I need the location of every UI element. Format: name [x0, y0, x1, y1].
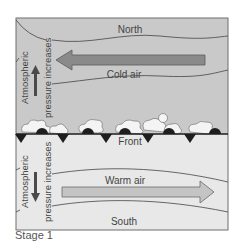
north-label: North [118, 24, 142, 35]
south-label: South [111, 216, 137, 227]
weather-front-diagram: North Cold air Front Warm air South Atmo… [0, 0, 244, 245]
pressure-label-top-line2: pressure increases [42, 37, 53, 118]
pressure-label-bottom-line1: Atmospheric [19, 155, 30, 208]
pressure-label-top-line1: Atmospheric [19, 51, 30, 104]
cold-air-label: Cold air [107, 69, 142, 80]
warm-air-label: Warm air [105, 175, 146, 186]
front-label: Front [118, 136, 142, 147]
stage-caption: Stage 1 [15, 229, 53, 241]
pressure-label-bottom-line2: pressure increases [42, 141, 53, 222]
